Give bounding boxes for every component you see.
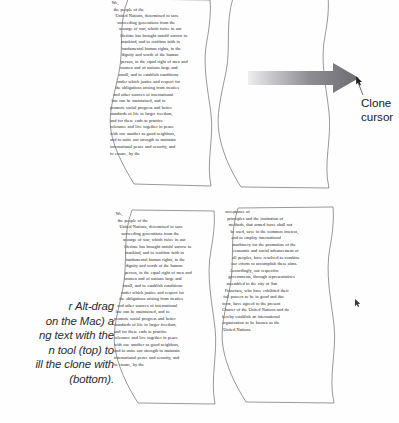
caption-line: ng text with the xyxy=(0,328,114,343)
text-line: United Nations. xyxy=(222,327,340,334)
text-line: to ensure, by the xyxy=(114,362,219,369)
source-text-block-bottom: We,the people of theUnited Nations, dete… xyxy=(114,208,219,406)
figure-caption: r Alt-dragon the Mac) ang text with then… xyxy=(0,299,114,387)
panel-clip xyxy=(219,0,335,190)
panel-text-content xyxy=(219,0,335,190)
panel-text-content: We,the people of theUnited Nations, dete… xyxy=(114,208,219,406)
source-text-block-top: We,the people of theUnited Nations, dete… xyxy=(110,0,215,188)
panel-text-content: acceptance ofprinciples and the institut… xyxy=(222,205,340,405)
caption-line: ill the clone with xyxy=(0,357,114,372)
figure-canvas: We,the people of theUnited Nations, dete… xyxy=(0,0,399,423)
panel-clip: We,the people of theUnited Nations, dete… xyxy=(110,0,215,188)
empty-destination-block-top xyxy=(219,0,335,190)
clone-cursor-label: Clone cursor xyxy=(361,96,393,125)
panel-clip: acceptance ofprinciples and the institut… xyxy=(222,205,340,405)
caption-line: (bottom). xyxy=(0,372,114,387)
caption-line: n tool (top) to xyxy=(0,343,114,358)
clone-cursor-label-line1: Clone xyxy=(361,96,393,110)
panel-clip: We,the people of theUnited Nations, dete… xyxy=(114,208,219,406)
panel-text-content: We,the people of theUnited Nations, dete… xyxy=(110,0,215,188)
cloned-text-block-bottom: acceptance ofprinciples and the institut… xyxy=(222,205,340,405)
text-line: to ensure, by the xyxy=(110,151,215,158)
caption-line: r Alt-drag xyxy=(0,299,114,314)
caption-line: on the Mac) a xyxy=(0,314,114,329)
clone-cursor-label-line2: cursor xyxy=(361,110,393,124)
